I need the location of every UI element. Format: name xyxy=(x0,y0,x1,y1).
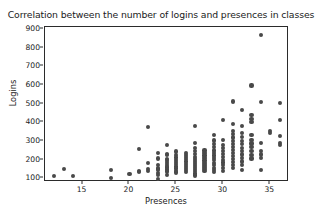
x-tick-mark xyxy=(128,181,129,184)
scatter-point xyxy=(184,170,188,174)
y-tick-label: 500 xyxy=(26,98,41,107)
scatter-point xyxy=(221,138,225,142)
x-axis-label: Presences xyxy=(44,196,288,206)
y-tick-label: 400 xyxy=(26,117,41,126)
y-tick-mark xyxy=(40,65,43,66)
x-tick-mark xyxy=(222,181,223,184)
scatter-point xyxy=(259,168,263,172)
y-tick-label: 700 xyxy=(26,61,41,70)
scatter-point xyxy=(231,99,235,103)
y-tick-mark xyxy=(40,139,43,140)
scatter-point xyxy=(146,125,150,129)
x-tick-label: 20 xyxy=(124,185,134,194)
y-tick-mark xyxy=(40,158,43,159)
scatter-point xyxy=(249,133,253,137)
x-tick-mark xyxy=(269,181,270,184)
y-tick-mark xyxy=(40,177,43,178)
y-tick-label: 100 xyxy=(26,173,41,182)
x-tick-label: 30 xyxy=(217,185,227,194)
scatter-point xyxy=(221,118,225,122)
scatter-point xyxy=(240,108,244,112)
scatter-point xyxy=(212,170,216,174)
scatter-point xyxy=(221,169,225,173)
scatter-point xyxy=(249,120,253,124)
scatter-point xyxy=(193,141,197,145)
scatter-point xyxy=(249,156,253,160)
scatter-point xyxy=(109,168,113,172)
scatter-point xyxy=(193,173,197,177)
scatter-point xyxy=(268,131,272,135)
y-tick-mark xyxy=(40,27,43,28)
y-tick-mark xyxy=(40,46,43,47)
y-tick-mark xyxy=(40,102,43,103)
scatter-point xyxy=(137,147,141,151)
x-tick-mark xyxy=(81,181,82,184)
scatter-point xyxy=(193,124,197,128)
scatter-point xyxy=(259,33,263,37)
chart-title: Correlation between the number of logins… xyxy=(0,9,322,20)
y-tick-mark xyxy=(40,121,43,122)
scatter-point xyxy=(231,122,235,126)
scatter-point xyxy=(137,170,141,174)
y-axis-tick-labels: 100200300400500600700800900 xyxy=(14,26,40,181)
scatter-point xyxy=(278,118,282,122)
scatter-point xyxy=(278,101,282,105)
scatter-point xyxy=(249,83,253,87)
y-tick-label: 200 xyxy=(26,154,41,163)
plot-area xyxy=(44,26,288,181)
scatter-point xyxy=(240,168,244,172)
scatter-point xyxy=(240,163,244,167)
x-tick-mark xyxy=(175,181,176,184)
scatter-point xyxy=(127,172,131,176)
scatter-point xyxy=(259,100,263,104)
scatter-point xyxy=(259,141,263,145)
scatter-point xyxy=(259,156,263,160)
scatter-point xyxy=(174,170,178,174)
scatter-point xyxy=(156,151,160,155)
y-tick-label: 600 xyxy=(26,79,41,88)
scatter-point xyxy=(62,167,66,171)
y-tick-label: 300 xyxy=(26,135,41,144)
y-tick-label: 900 xyxy=(26,23,41,32)
scatter-point xyxy=(146,169,150,173)
scatter-point xyxy=(71,174,75,178)
scatter-point xyxy=(165,173,169,177)
x-axis-tick-labels: 1520253035 xyxy=(44,181,288,197)
y-tick-mark xyxy=(40,83,43,84)
scatter-point xyxy=(109,176,113,180)
x-tick-label: 15 xyxy=(77,185,87,194)
scatter-point xyxy=(212,133,216,137)
scatter-point xyxy=(240,124,244,128)
scatter-point xyxy=(156,156,160,160)
scatter-point xyxy=(202,169,206,173)
scatter-point xyxy=(278,134,282,138)
scatter-chart-figure: Correlation between the number of logins… xyxy=(0,0,322,219)
scatter-point xyxy=(231,166,235,170)
x-tick-label: 35 xyxy=(264,185,274,194)
y-tick-label: 800 xyxy=(26,42,41,51)
x-tick-label: 25 xyxy=(171,185,181,194)
scatter-point xyxy=(146,161,150,165)
scatter-points-layer xyxy=(45,27,287,180)
scatter-point xyxy=(278,143,282,147)
scatter-point xyxy=(165,143,169,147)
scatter-point xyxy=(52,174,56,178)
